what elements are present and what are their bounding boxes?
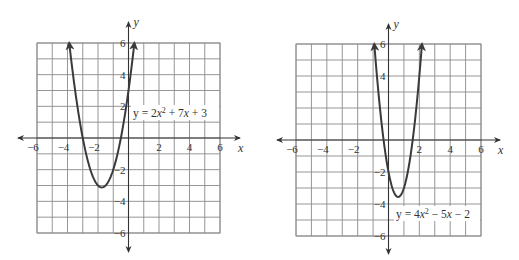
y-tick-label: 4 [380, 70, 386, 82]
y-tick-label: 6 [380, 38, 386, 50]
figure-canvas: −6−4−2246 642−2−4−6 x y y = 2x2 + 7x + 3… [0, 0, 519, 260]
y-tick-label: −6 [374, 230, 386, 242]
graph-left: −6−4−2246 642−2−4−6 x y y = 2x2 + 7x + 3 [18, 15, 244, 252]
y-tick-label: −2 [374, 166, 386, 178]
x-tick-label: −2 [348, 143, 360, 155]
x-tick-label: 2 [156, 141, 162, 153]
y-tick-label: 6 [120, 37, 126, 49]
equation-label: y = 4x2 − 5x − 2 [396, 207, 470, 221]
x-tick-label: −4 [58, 141, 70, 153]
y-tick-label: 4 [120, 69, 126, 81]
y-axis-label: y [133, 15, 140, 29]
x-tick-label: 6 [217, 141, 223, 153]
x-tick-labels: −6−4−2246 [27, 141, 223, 153]
graph-right: −6−4−2246 64−2−4−6 x y y = 4x2 − 5x − 2 [277, 17, 504, 254]
x-tick-label: 4 [447, 143, 453, 155]
x-tick-label: 4 [187, 141, 193, 153]
x-tick-label: −6 [286, 143, 298, 155]
y-tick-label: −6 [114, 227, 126, 239]
y-tick-label: −4 [374, 198, 386, 210]
y-tick-label: −4 [114, 195, 126, 207]
x-axis-label: x [237, 141, 244, 155]
x-axis-label: x [497, 143, 504, 157]
x-tick-label: −4 [317, 143, 329, 155]
x-tick-label: −6 [27, 141, 39, 153]
equation-label: y = 2x2 + 7x + 3 [133, 106, 207, 120]
y-axis-label: y [393, 17, 400, 31]
x-tick-label: 2 [417, 143, 423, 155]
x-tick-label: 6 [478, 143, 484, 155]
x-tick-label: −2 [88, 141, 100, 153]
